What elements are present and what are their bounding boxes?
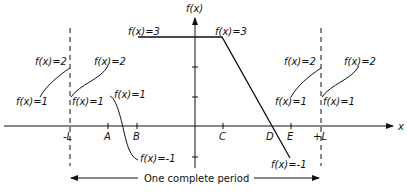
- label-top-left-3: f(x)=3: [128, 26, 160, 37]
- y-axis-label: f(x): [186, 3, 203, 14]
- label-left-1: f(x)=1: [16, 96, 48, 107]
- x-axis-label: x: [397, 121, 404, 132]
- tick-A: A: [103, 131, 111, 142]
- label-top-right-3: f(x)=3: [215, 26, 247, 37]
- periodic-function-diagram: f(x) x -L A B C D E +L f(x)=3 f(x)=3 f(x…: [0, 0, 407, 194]
- tick-C: C: [219, 131, 226, 142]
- label-left-2: f(x)=2: [35, 56, 67, 67]
- leader-lines: [40, 66, 359, 160]
- label-left-1-after: f(x)=1: [72, 96, 104, 107]
- tick-D: D: [266, 131, 274, 142]
- label-right-2-after: f(x)=2: [344, 56, 376, 67]
- tick-E: E: [287, 131, 294, 142]
- period-label: One complete period: [144, 173, 249, 184]
- label-near-A-1: f(x)=1: [114, 89, 146, 100]
- label-left-2-after: f(x)=2: [94, 56, 126, 67]
- label-near-B-minus1: f(x)=-1: [140, 153, 176, 164]
- tick-minus-L: -L: [63, 131, 72, 142]
- tick-plus-L: +L: [313, 131, 327, 142]
- diagram-canvas: f(x) x -L A B C D E +L f(x)=3 f(x)=3 f(x…: [0, 0, 407, 194]
- label-slope-minus1: f(x)=-1: [271, 159, 307, 170]
- tick-B: B: [133, 131, 140, 142]
- label-right-1: f(x)=1: [275, 96, 307, 107]
- label-right-1-after: f(x)=1: [323, 96, 355, 107]
- label-right-2: f(x)=2: [284, 56, 316, 67]
